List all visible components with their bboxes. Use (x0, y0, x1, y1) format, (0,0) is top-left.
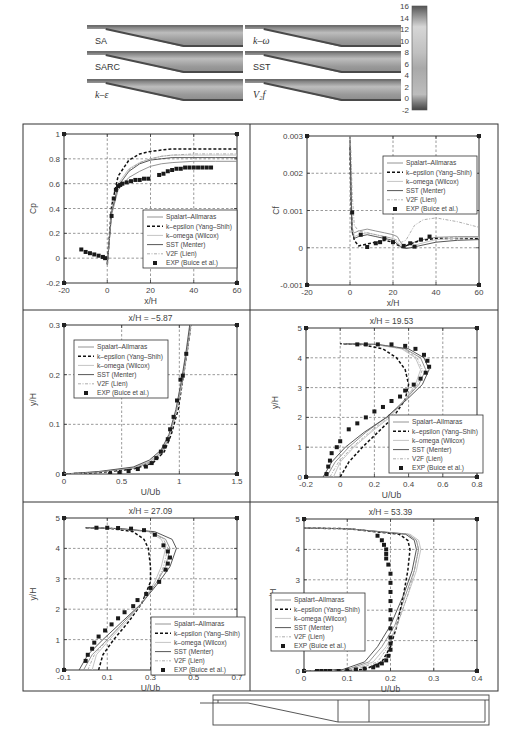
contour-strip: k–ε (87, 79, 243, 101)
y-tick-label: 3 (296, 576, 301, 585)
legend-entry: k–omega (Wilcox) (294, 615, 347, 623)
colorbar-tick: 14 (400, 14, 409, 23)
legend: Spalart–Allmarask–epsilon (Yang–Shih)k–o… (383, 156, 477, 214)
chart-cf: -200204060-0.00100.0010.0020.003x/HCfSpa… (271, 132, 484, 308)
x-tick-label: 0.4 (471, 674, 483, 683)
chart-u-profile-19-53: -0.200.20.40.60.8012345U/Uby/Hx/H = 19.5… (270, 316, 483, 500)
contour-strip: SST (245, 51, 401, 73)
legend-entry: k–omega (Wilcox) (166, 232, 219, 240)
chart-u-profile-53-39: 00.10.20.30.4012345U/Uby/Hx/H = 53.39Spa… (268, 507, 483, 694)
y-axis-label: y/H (28, 588, 38, 601)
colorbar-tick: -2 (402, 106, 410, 115)
contour-strip: SA (87, 25, 243, 47)
series-line (86, 528, 151, 670)
y-tick-label: 4 (296, 545, 301, 554)
x-tick-label: 0 (302, 674, 307, 683)
y-tick-label: 0.003 (283, 132, 304, 141)
panel-title: x/H = 19.53 (370, 316, 414, 326)
colorbar-tick: 4 (405, 71, 410, 80)
legend-entry: V2F (Lien) (412, 455, 443, 463)
y-tick-label: 0 (56, 470, 61, 479)
x-tick-label: 60 (475, 288, 484, 297)
strip-label: SARC (95, 62, 121, 72)
y-tick-label: 0.1 (49, 420, 61, 429)
x-tick-label: 0 (105, 286, 110, 295)
y-axis-label: y/H (270, 396, 280, 409)
legend-entry: k–epsilon (Yang–Shih) (406, 169, 472, 177)
legend: Spalart–Allmarask–epsilon (Yang–Shih)k–o… (143, 210, 237, 268)
contour-strips: SAk–ωSARCSSTk–εV₂f (87, 25, 401, 101)
y-tick-label: -0.2 (46, 279, 60, 288)
x-tick-label: 0.1 (342, 674, 354, 683)
legend-entry: V2F (Lien) (166, 250, 197, 258)
x-axis-label: U/Ub (381, 684, 401, 694)
y-tick-label: 0.8 (49, 155, 61, 164)
legend-entry: k–omega (Wilcox) (97, 362, 150, 370)
series-exp-markers (350, 210, 431, 249)
legend-entry: Spalart–Allmaras (166, 213, 217, 221)
strip-label: V₂f (253, 89, 267, 100)
legend-entry: k–omega (Wilcox) (406, 178, 459, 186)
colorbar-tick: 6 (405, 60, 410, 69)
colorbar: 1614121086420-2 (400, 2, 427, 115)
x-tick-label: 0.3 (428, 674, 440, 683)
y-tick-label: 3 (298, 384, 303, 393)
legend-entry: k–epsilon (Yang–Shih) (294, 606, 360, 614)
legend: Spalart–Allmarask–epsilon (Yang–Shih)k–o… (271, 593, 365, 651)
y-tick-label: 0.6 (49, 180, 61, 189)
strip-label: k–ω (253, 35, 270, 46)
chart-u-profile-m5-87: 00.511.500.10.20.3U/Uby/Hx/H = −5.87Spal… (28, 313, 243, 497)
figure-canvas: SAk–ωSARCSSTk–εV₂f 1614121086420-2 -2002… (0, 0, 510, 741)
y-tick-label: 0.002 (283, 169, 304, 178)
y-tick-label: 0.2 (49, 229, 61, 238)
chart-cp: -200204060-0.200.20.40.60.81x/HCpSpalart… (28, 130, 242, 306)
y-tick-label: 5 (298, 324, 303, 333)
colorbar-tick: 2 (405, 83, 410, 92)
y-axis-label: Cp (28, 203, 38, 214)
x-axis-label: x/H (144, 296, 157, 306)
x-axis-label: U/Ub (141, 487, 161, 497)
y-tick-label: 0 (299, 244, 304, 253)
x-tick-label: -20 (301, 288, 313, 297)
diffuser-sketch (200, 695, 489, 725)
y-tick-label: 2 (298, 413, 303, 422)
y-axis-label: y/H (28, 393, 38, 406)
legend-entry: V2F (Lien) (97, 380, 128, 388)
legend: Spalart–Allmarask–epsilon (Yang–Shih)k–o… (74, 340, 168, 398)
x-axis-label: x/H (387, 298, 400, 308)
y-tick-label: 0.001 (283, 207, 304, 216)
legend-entry: k–epsilon (Yang–Shih) (412, 428, 478, 436)
x-tick-label: 40 (189, 286, 198, 295)
legend-entry: EXP (Buice et al.) (166, 259, 218, 267)
x-tick-label: 0.2 (369, 480, 381, 489)
legend-entry: EXP (Buice et al.) (294, 642, 346, 650)
legend-entry: Spalart–Allmaras (97, 343, 148, 351)
y-tick-label: 2 (56, 605, 61, 614)
legend-entry: EXP (Buice et al.) (174, 666, 226, 674)
panel-title: x/H = 27.09 (129, 506, 173, 516)
x-tick-label: 0.4 (403, 480, 415, 489)
x-tick-label: 0.5 (116, 477, 128, 486)
x-tick-label: 0.6 (437, 480, 449, 489)
strip-label: k–ε (95, 89, 108, 100)
x-tick-label: 40 (432, 288, 441, 297)
y-tick-label: 5 (296, 515, 301, 524)
y-tick-label: 0 (56, 254, 61, 263)
legend-entry: SST (Menter) (406, 187, 445, 195)
legend-entry: SST (Menter) (174, 648, 213, 656)
legend-entry: SST (Menter) (97, 371, 136, 379)
legend-entry: V2F (Lien) (406, 196, 437, 204)
charts-layer: -200204060-0.200.20.40.60.81x/HCpSpalart… (28, 130, 484, 694)
x-tick-label: 0 (348, 288, 353, 297)
y-tick-label: 0.4 (49, 205, 61, 214)
legend-entry: Spalart–Allmaras (412, 418, 463, 426)
contour-strip: k–ω (245, 25, 401, 47)
contour-strip: SARC (87, 51, 243, 73)
legend-entry: V2F (Lien) (174, 657, 205, 665)
y-tick-label: 0.2 (49, 371, 61, 380)
legend-entry: k–epsilon (Yang–Shih) (174, 630, 240, 638)
chart-u-profile-27-09: -0.10.10.30.50.7012345U/Uby/Hx/H = 27.09… (28, 506, 245, 693)
x-tick-label: 0.2 (385, 674, 397, 683)
y-tick-label: 3 (56, 575, 61, 584)
legend-entry: k–epsilon (Yang–Shih) (166, 223, 232, 231)
